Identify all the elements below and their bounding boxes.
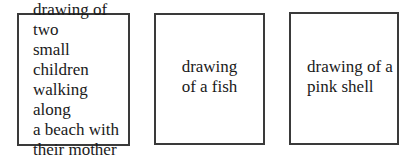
- placeholder-box-pink-shell: drawing of a pink shell: [289, 12, 399, 145]
- box-label: drawing of a pink shell: [307, 57, 393, 97]
- box-label: drawing of two small children walking al…: [33, 0, 128, 156]
- placeholder-box-children-beach: drawing of two small children walking al…: [17, 13, 130, 146]
- box-label: drawing of a fish: [182, 57, 238, 101]
- placeholder-box-fish: drawing of a fish: [154, 13, 265, 145]
